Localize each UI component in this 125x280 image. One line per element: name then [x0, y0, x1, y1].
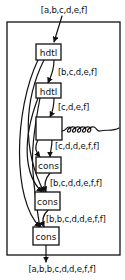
edge-label-4: [b,c,d,d,e,f,f]: [50, 178, 102, 188]
input-list-label: [a,b,c,d,e,f]: [41, 5, 87, 15]
recursion-coil-icon: [62, 127, 119, 132]
recursion-dataflow-diagram: [a,b,c,d,e,f] hdtl [b,c,d,e,f] hdtl [c,d…: [0, 0, 125, 280]
cons-node-3-label: cons: [36, 232, 57, 242]
recursive-call-box: [36, 117, 62, 140]
hdtl-node-1-label: hdtl: [40, 48, 57, 58]
cons-node-2: cons: [35, 192, 60, 210]
edge-label-5: [b,b,c,d,d,e,f,f]: [46, 214, 106, 224]
cons-node-3: cons: [33, 227, 59, 245]
output-list-label: [a,b,b,c,d,d,e,f,f]: [28, 264, 95, 274]
edge-blank-to-cons1-left: [36, 140, 40, 157]
hdtl-node-2-label: hdtl: [40, 87, 57, 97]
edge-label-2: [c,d,e,f]: [58, 102, 89, 112]
cons-node-2-label: cons: [37, 197, 58, 207]
hdtl-node-1: hdtl: [36, 44, 61, 60]
edge-blank-to-cons1: [50, 140, 52, 157]
edge-label-3: [c,d,d,e,f,f]: [55, 141, 99, 151]
input-arrow: [54, 16, 62, 42]
cons-node-1-label: cons: [38, 161, 59, 171]
edge-hdtl2-to-blank: [50, 98, 54, 117]
edge-label-1: [b,c,d,e,f]: [58, 67, 97, 77]
edge-hdtl1-to-hdtl2: [48, 60, 54, 83]
hdtl-node-2: hdtl: [36, 83, 61, 98]
cons-node-1: cons: [36, 157, 61, 173]
